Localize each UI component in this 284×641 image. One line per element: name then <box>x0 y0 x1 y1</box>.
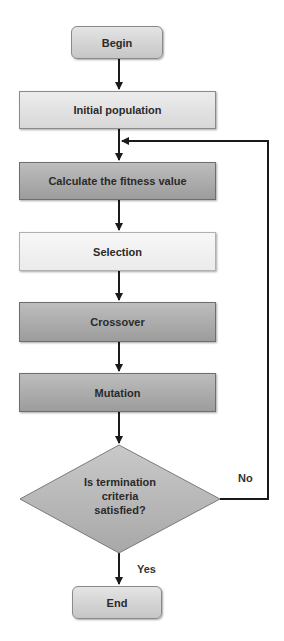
initial-population-label: Initial population <box>74 104 162 116</box>
mutation-label: Mutation <box>95 387 141 399</box>
fitness-label: Calculate the fitness value <box>48 175 186 187</box>
yes-edge-label: Yes <box>137 563 156 575</box>
selection-node: Selection <box>19 232 216 271</box>
decision-line-3: satisfied? <box>60 503 180 517</box>
mutation-node: Mutation <box>19 373 216 412</box>
decision-line-2: criteria <box>60 489 180 503</box>
selection-label: Selection <box>93 246 142 258</box>
decision-line-1: Is termination <box>60 475 180 489</box>
begin-label: Begin <box>102 37 133 49</box>
end-node: End <box>72 586 162 619</box>
initial-population-node: Initial population <box>19 91 216 129</box>
crossover-label: Crossover <box>90 316 144 328</box>
decision-label: Is termination criteria satisfied? <box>60 475 180 517</box>
fitness-node: Calculate the fitness value <box>19 162 216 200</box>
crossover-node: Crossover <box>19 302 216 342</box>
begin-node: Begin <box>71 26 163 59</box>
no-edge-label: No <box>238 472 253 484</box>
end-label: End <box>107 597 128 609</box>
